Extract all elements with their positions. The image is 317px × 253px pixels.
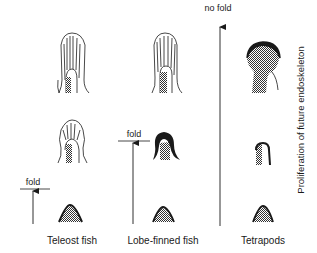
lobe-finned-fold-label: fold bbox=[127, 129, 142, 139]
tetrapods-apical-ridge-icon bbox=[256, 143, 270, 165]
tetrapods-no-fold-label: no fold bbox=[204, 3, 231, 13]
y-axis-label: Proliferation of future endoskeleton bbox=[295, 46, 306, 193]
teleost-label: Teleost fish bbox=[47, 235, 97, 246]
lobe-finned-column: fold Lobe-finned fish bbox=[118, 33, 199, 246]
lobe-finned-apical-ridge-icon bbox=[153, 132, 180, 160]
teleost-fin-fold-small-icon bbox=[58, 120, 87, 163]
tetrapods-column: no fold Tetrapods bbox=[204, 3, 284, 246]
teleost-column: fold Teleost fish bbox=[20, 33, 97, 246]
fin-development-diagram: fold Teleost fish fold Lobe-finned fish bbox=[0, 0, 317, 253]
teleost-fold-label: fold bbox=[26, 177, 41, 187]
tetrapods-paddle-icon bbox=[247, 42, 280, 93]
lobe-finned-bud-icon bbox=[153, 207, 174, 222]
teleost-bud-icon bbox=[59, 205, 82, 222]
tetrapods-bud-icon bbox=[253, 206, 273, 222]
lobe-finned-label: Lobe-finned fish bbox=[127, 235, 198, 246]
tetrapods-label: Tetrapods bbox=[241, 235, 285, 246]
teleost-fin-fold-large-icon bbox=[58, 33, 89, 93]
lobe-finned-fin-fold-large-icon bbox=[152, 33, 182, 93]
